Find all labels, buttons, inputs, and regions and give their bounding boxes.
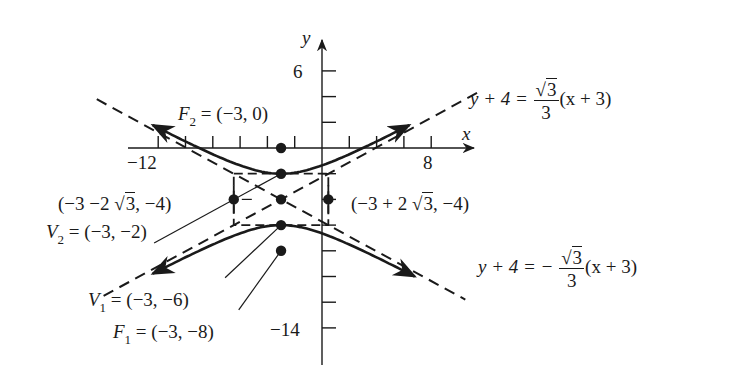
point-left-conjugate bbox=[229, 194, 239, 204]
hyperbola-plot bbox=[0, 0, 735, 379]
tick-label-neg14: −14 bbox=[270, 320, 300, 339]
y-axis-label: y bbox=[302, 28, 310, 47]
label-asymptote-negative: y + 4 = − √33(x + 3) bbox=[478, 248, 637, 290]
x-ticks bbox=[158, 136, 431, 148]
point-V1 bbox=[276, 220, 286, 230]
label-asymptote-positive: y + 4 = √33(x + 3) bbox=[470, 80, 611, 122]
point-right-conjugate bbox=[323, 194, 333, 204]
label-v1: V1 = (−3, −6) bbox=[88, 290, 189, 309]
label-left-point: (−3 −2 √3, −4) bbox=[58, 194, 171, 213]
point-F1 bbox=[276, 246, 286, 256]
label-f1: F1 = (−3, −8) bbox=[113, 322, 214, 341]
tick-label-neg12: −12 bbox=[127, 153, 157, 172]
point-V2 bbox=[276, 169, 286, 179]
label-right-point: (−3 + 2 √3, −4) bbox=[351, 194, 469, 213]
point-center bbox=[276, 194, 286, 204]
tick-label-6: 6 bbox=[293, 62, 303, 81]
label-f2: F2 = (−3, 0) bbox=[178, 104, 268, 123]
x-axis-label: x bbox=[462, 124, 470, 143]
tick-label-8: 8 bbox=[423, 153, 433, 172]
label-v2: V2 = (−3, −2) bbox=[46, 222, 147, 241]
point-F2 bbox=[276, 143, 286, 153]
